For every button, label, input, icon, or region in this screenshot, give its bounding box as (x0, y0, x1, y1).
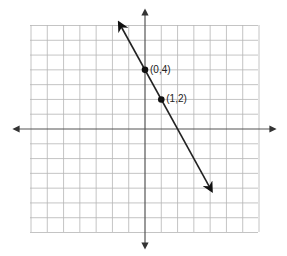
coordinate-plane: (0,4)(1,2) (0, 0, 287, 256)
point-label: (0,4) (150, 64, 171, 75)
data-point (142, 67, 149, 74)
data-point (158, 96, 165, 103)
plot-line (121, 26, 211, 189)
line-series (121, 26, 211, 189)
axes (16, 12, 273, 246)
point-label: (1,2) (166, 93, 187, 104)
